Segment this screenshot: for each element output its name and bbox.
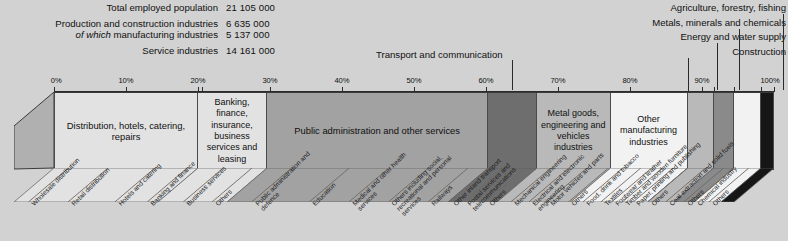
axis-tick-label: 60% <box>478 76 493 85</box>
summary-value: 14 161 000 <box>226 45 314 56</box>
summary-label: Production and construction industries <box>0 18 226 29</box>
bar-end-cap-shape <box>14 92 55 170</box>
axis-tick-label: 0% <box>51 76 62 85</box>
bar-end-cap <box>14 92 55 168</box>
bar-segment-label: Other manufacturing industries <box>611 114 687 148</box>
percent-axis: 0%10%20%30%40%50%60%70%80%90%100% <box>54 76 774 90</box>
axis-tick-label: 40% <box>334 76 349 85</box>
summary-label: Total employed population <box>0 2 226 13</box>
callout-agriculture: Agriculture, forestry, fishing <box>652 1 786 16</box>
summary-label-italic: of which <box>76 29 111 40</box>
bar-segment-label: Public administration and other services <box>292 125 462 136</box>
summary-row: of which manufacturing industries 5 137 … <box>0 29 320 40</box>
callout-energy: Energy and water supply <box>652 30 786 45</box>
leader-line-agriculture <box>783 14 784 90</box>
callout-construction: Construction <box>652 45 786 60</box>
axis-tick-label: 20% <box>190 76 205 85</box>
bar-segment[interactable] <box>761 93 774 169</box>
summary-row: Service industries 14 161 000 <box>0 45 320 56</box>
callout-metals: Metals, minerals and chemicals <box>652 16 786 31</box>
infographic-root: Total employed population 21 105 000 Pro… <box>0 0 788 241</box>
bar-segment[interactable] <box>688 93 714 169</box>
axis-tick-label: 90% <box>694 76 709 85</box>
summary-label: Service industries <box>0 45 226 56</box>
axis-tick-label: 70% <box>550 76 565 85</box>
summary-table: Total employed population 21 105 000 Pro… <box>0 2 320 56</box>
bar-segment[interactable]: Banking, finance, insurance, business se… <box>198 93 267 169</box>
axis-tick-label: 100% <box>760 76 779 85</box>
axis-tick-label: 30% <box>262 76 277 85</box>
axis-tick-label: 10% <box>118 76 133 85</box>
summary-value: 5 137 000 <box>226 29 314 40</box>
summary-value: 21 105 000 <box>226 2 314 13</box>
stacked-bar-chart: Distribution, hotels, catering, repairsB… <box>0 90 788 202</box>
axis-tick-label: 80% <box>622 76 637 85</box>
bar-segment-label: Distribution, hotels, catering, repairs <box>55 120 197 143</box>
callout-label-group: Agriculture, forestry, fishing Metals, m… <box>652 1 786 59</box>
summary-row: Production and construction industries 6… <box>0 18 320 29</box>
summary-row: Total employed population 21 105 000 <box>0 2 320 13</box>
summary-value: 6 635 000 <box>226 18 314 29</box>
bar-segment[interactable] <box>734 93 761 169</box>
summary-label: of which manufacturing industries <box>0 29 226 40</box>
axis-tick-label: 50% <box>406 76 421 85</box>
bar-segment-label: Banking, finance, insurance, business se… <box>198 97 266 165</box>
callout-transport: Transport and communication <box>376 49 503 60</box>
